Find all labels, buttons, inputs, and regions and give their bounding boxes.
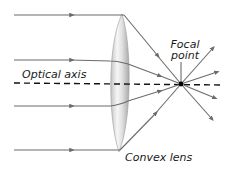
ray-diagram-svg xyxy=(0,0,233,169)
focal-point-label-line2: point xyxy=(168,50,202,61)
optical-axis-line xyxy=(14,83,224,85)
convex-lens-shape xyxy=(111,14,129,152)
optical-axis-label: Optical axis xyxy=(22,69,86,80)
focal-point-dot xyxy=(179,82,184,87)
focal-point-label: Focal point xyxy=(168,39,202,61)
convex-lens-label: Convex lens xyxy=(125,152,192,163)
lens-diagram: Focal point Optical axis Convex lens xyxy=(0,0,233,169)
